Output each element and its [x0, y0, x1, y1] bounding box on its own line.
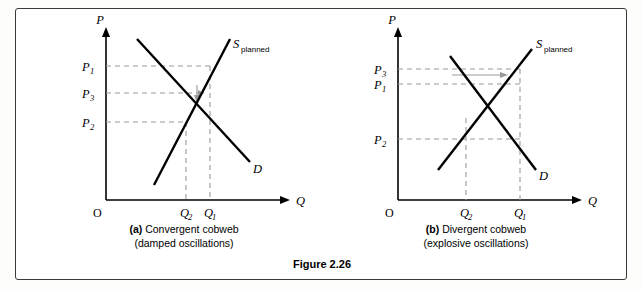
demand-curve-b — [450, 56, 536, 170]
caption-b-line2: (explosive oscillations) — [326, 237, 626, 251]
supply-curve-b — [438, 49, 532, 170]
figure-page: S planned D P Q O P 1 P 3 P 2 Q — [0, 0, 642, 290]
caption-a-line1: (a) Convergent cobweb — [34, 223, 334, 237]
supply-curve-a — [154, 39, 230, 185]
supply-label-a: S — [233, 37, 240, 51]
y-axis-arrow-a — [102, 27, 110, 37]
qty-tick-q1-sub-a: 1 — [212, 212, 216, 222]
x-axis-arrow-a — [280, 196, 290, 204]
panel-divergent-cobweb: S planned D P Q O P 3 P 1 P 2 Q — [326, 15, 626, 240]
origin-label-a: O — [93, 206, 102, 220]
qty-tick-q2-sub-b: 2 — [468, 212, 473, 222]
diagram-a-svg: S planned D P Q O P 1 P 3 P 2 Q — [34, 15, 334, 240]
price-tick-p3-sub-a: 3 — [89, 93, 94, 103]
price-tick-p3-sub-b: 3 — [381, 69, 386, 79]
x-axis-label-b: Q — [588, 194, 597, 208]
demand-label-a: D — [252, 162, 262, 176]
figure-number-label: Figure 2.26 — [16, 258, 628, 270]
price-tick-p2-sub-b: 2 — [382, 139, 387, 149]
caption-panel-b: (b) Divergent cobweb (explosive oscillat… — [326, 223, 626, 250]
price-tick-p2-a: P — [81, 116, 90, 130]
origin-label-b: O — [385, 206, 394, 220]
qty-tick-q2-sub-a: 2 — [188, 212, 193, 222]
demand-label-b: D — [538, 169, 548, 183]
price-tick-p1-sub-b: 1 — [382, 84, 386, 94]
y-axis-label-b: P — [387, 15, 396, 27]
caption-a-line2: (damped oscillations) — [34, 237, 334, 251]
diagram-b-svg: S planned D P Q O P 3 P 1 P 2 Q — [326, 15, 626, 240]
caption-panel-a: (a) Convergent cobweb (damped oscillatio… — [34, 223, 334, 250]
x-axis-label-a: Q — [296, 194, 305, 208]
supply-sub-label-b: planned — [544, 45, 572, 54]
cobweb-arrow-head-b — [500, 72, 508, 78]
y-axis-arrow-b — [394, 27, 402, 37]
price-tick-p3-b: P — [373, 63, 382, 77]
supply-sub-label-a: planned — [241, 45, 269, 54]
qty-tick-q1-sub-b: 1 — [522, 212, 526, 222]
price-tick-p2-b: P — [373, 133, 382, 147]
panels-container: S planned D P Q O P 1 P 3 P 2 Q — [16, 9, 626, 279]
y-axis-label-a: P — [95, 15, 104, 27]
x-axis-arrow-b — [572, 196, 582, 204]
price-tick-p1-b: P — [373, 78, 382, 92]
price-tick-p1-sub-a: 1 — [90, 66, 94, 76]
demand-curve-a — [137, 39, 250, 162]
caption-b-line1: (b) Divergent cobweb — [326, 223, 626, 237]
price-tick-p3-a: P — [81, 87, 90, 101]
price-tick-p1-a: P — [81, 60, 90, 74]
price-tick-p2-sub-a: 2 — [90, 122, 95, 132]
panel-convergent-cobweb: S planned D P Q O P 1 P 3 P 2 Q — [34, 15, 334, 240]
figure-border-box: S planned D P Q O P 1 P 3 P 2 Q — [15, 8, 627, 280]
supply-label-b: S — [536, 37, 543, 51]
